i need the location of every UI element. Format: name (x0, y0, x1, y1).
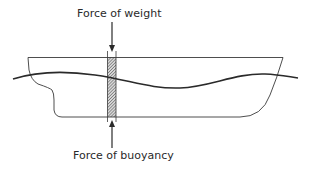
diagram-canvas (0, 0, 310, 174)
stern-profile (28, 58, 62, 118)
force-of-weight-label: Force of weight (77, 7, 161, 20)
bow-profile (240, 58, 283, 118)
buoyancy-arrow-icon (109, 120, 115, 148)
waterline-wave (13, 72, 298, 88)
ship-force-diagram: Force of weight Force of buoyancy (0, 0, 310, 174)
hatched-section (108, 51, 117, 122)
force-of-buoyancy-label: Force of buoyancy (73, 149, 174, 162)
weight-arrow-icon (109, 22, 115, 52)
